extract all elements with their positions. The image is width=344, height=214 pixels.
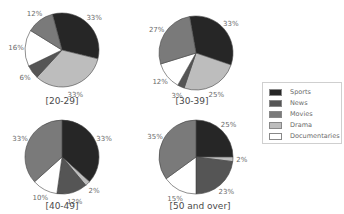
slice-percent-label: 33% (223, 20, 239, 28)
slice-percent-label: 6% (20, 74, 31, 82)
pie-chart: 33%2%12%10%33%[40-49] (12, 120, 112, 211)
slice-percent-label: 2% (88, 187, 99, 195)
legend-label: Documentaries (290, 132, 340, 140)
slice-percent-label: 23% (219, 188, 235, 196)
legend-label: Movies (290, 110, 313, 118)
chart-title: [20-29] (45, 96, 78, 106)
legend-item-movies: Movies (269, 109, 313, 119)
slice-percent-label: 2% (236, 156, 247, 164)
slice-percent-label: 33% (12, 135, 28, 143)
legend-swatch-sports (269, 89, 282, 96)
pie-chart: 33%25%3%12%27%[30-39] (149, 16, 239, 106)
legend-item-documentaries: Documentaries (269, 131, 340, 141)
pie-chart: 33%33%6%16%12%[20-29] (8, 10, 102, 106)
legend-swatch-drama (269, 122, 282, 129)
pie-chart: 25%2%23%15%35%[50 and over] (147, 120, 248, 211)
slice-percent-label: 25% (209, 91, 225, 99)
chart-title: [40-49] (45, 201, 78, 211)
slice-percent-label: 35% (147, 133, 163, 141)
slice-percent-label: 12% (27, 10, 43, 18)
chart-title: [50 and over] (169, 201, 230, 211)
slice-percent-label: 33% (96, 135, 112, 143)
slice-percent-label: 33% (86, 14, 102, 22)
slice-percent-label: 16% (8, 44, 24, 52)
slice-percent-label: 12% (152, 78, 168, 86)
legend-item-drama: Drama (269, 120, 312, 130)
legend-swatch-news (269, 100, 282, 107)
legend-label: News (290, 99, 308, 107)
legend-item-sports: Sports (269, 87, 311, 97)
slice-percent-label: 27% (149, 26, 165, 34)
slice-percent-label: 25% (221, 121, 237, 129)
legend-swatch-documentaries (269, 133, 282, 140)
legend-item-news: News (269, 98, 308, 108)
legend-swatch-movies (269, 111, 282, 118)
legend-label: Sports (290, 88, 311, 96)
legend-label: Drama (290, 121, 312, 129)
legend: Sports News Movies Drama Documentaries (262, 82, 342, 144)
chart-title: [30-39] (175, 96, 208, 106)
